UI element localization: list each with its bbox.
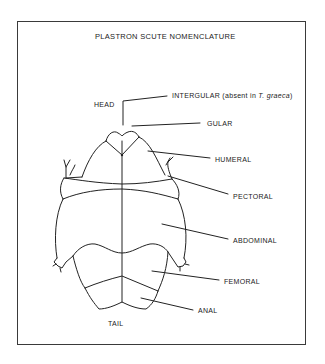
front-notch-right — [166, 157, 173, 179]
femoral-leader — [152, 271, 219, 280]
hind-notch-right — [168, 252, 189, 271]
intergular-leader — [123, 96, 167, 125]
abdomino-femoral-seam — [73, 244, 168, 256]
humeral-outline-right — [139, 137, 165, 175]
femoral-outline-left — [73, 256, 85, 288]
anal-leader — [141, 298, 193, 310]
gular-junction — [121, 154, 123, 156]
pectoral-outline-right — [172, 179, 179, 199]
humero-pectoral-seam — [64, 178, 172, 184]
gular-seam-left — [106, 141, 122, 155]
gular-seam-right — [122, 137, 139, 155]
hind-notch-left — [53, 256, 73, 272]
pectoral-outline-left — [60, 178, 64, 199]
front-notch-left — [64, 160, 82, 178]
abdominal-leader — [162, 224, 228, 239]
gular-outline — [106, 131, 139, 141]
femoral-outline-right — [158, 252, 168, 291]
humeral-leader — [148, 151, 210, 158]
plastron-drawing — [0, 0, 325, 364]
humeral-outline-left — [82, 141, 106, 177]
abdominal-outline-left — [55, 199, 63, 258]
gular-leader — [132, 123, 200, 126]
pectoro-abdominal-seam — [63, 189, 178, 199]
